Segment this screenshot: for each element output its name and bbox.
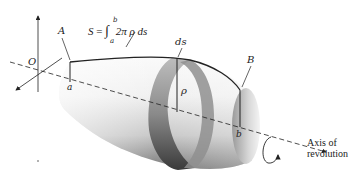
limit-a-label: a [67,83,72,92]
rotation-arrow-icon [263,137,278,163]
leader-ds [178,48,182,57]
surface-area-formula: S = ∫ 2π ρ ds [88,24,147,38]
integral-sign: ∫ [105,23,109,38]
axis-label-line1: Axis of [307,137,348,148]
leader-b [242,66,251,87]
limit-b-label: b [236,130,242,139]
formula-integrand: 2π ρ ds [116,25,148,37]
stray-dot [37,160,39,162]
coordinate-axes [16,16,62,92]
leader-a [62,38,70,60]
axis-of-revolution-label: Axis of revolution [307,137,348,159]
radius-label: ρ [181,86,187,96]
axis-label-line2: revolution [307,148,348,159]
arc-element-label: ds [175,37,187,47]
origin-label: O [28,57,36,67]
formula-equals: = [96,25,102,37]
formula-lhs: S [88,25,94,37]
point-a-label: A [58,26,65,36]
formula-lower-limit: a [110,38,114,45]
formula-upper-limit: b [113,17,117,24]
point-b-label: B [247,55,254,65]
end-cap-b [232,88,260,164]
